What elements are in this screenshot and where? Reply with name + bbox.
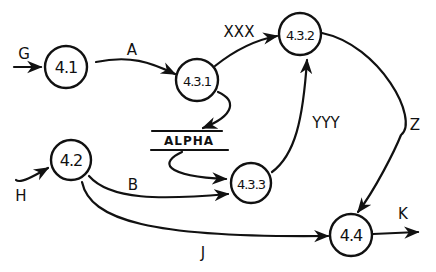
node-label-4-1: 4.1 — [55, 60, 77, 76]
flow-yyy-arrow — [272, 60, 307, 172]
flow-label-a: A — [127, 43, 137, 58]
flow-label-h: H — [15, 189, 26, 204]
flow-xxx-arrow — [215, 36, 277, 66]
flow-a-arrow — [96, 59, 175, 74]
node-label-4-4: 4.4 — [340, 228, 362, 244]
flow-label-j: J — [201, 246, 205, 261]
node-label-4-3-2: 4.3.2 — [286, 29, 314, 42]
flow-label-xxx: XXX — [224, 25, 255, 40]
node-label-4-3-3: 4.3.3 — [237, 178, 265, 191]
flow-k-arrow — [373, 232, 418, 234]
node-label-4-2: 4.2 — [60, 153, 82, 169]
data-store-alpha-label: ALPHA — [164, 135, 214, 147]
flow-label-g: G — [18, 47, 30, 62]
flow-label-b: B — [128, 178, 138, 193]
node-label-4-3-1: 4.3.1 — [183, 75, 211, 88]
flow-label-k: K — [398, 207, 408, 222]
flow-h-arrow — [16, 168, 48, 181]
flow-label-yyy: YYY — [312, 116, 340, 131]
flow-label-z: Z — [410, 118, 420, 133]
data-flow-diagram: 4.1 4.3.1 4.3.2 4.2 4.3.3 4.4 G A XXX YY… — [0, 0, 436, 272]
flow-j-arrow — [82, 182, 328, 236]
diagram-canvas — [0, 0, 436, 272]
flow-alpha-to-433-arrow — [169, 152, 226, 179]
flow-b-arrow — [89, 176, 228, 197]
